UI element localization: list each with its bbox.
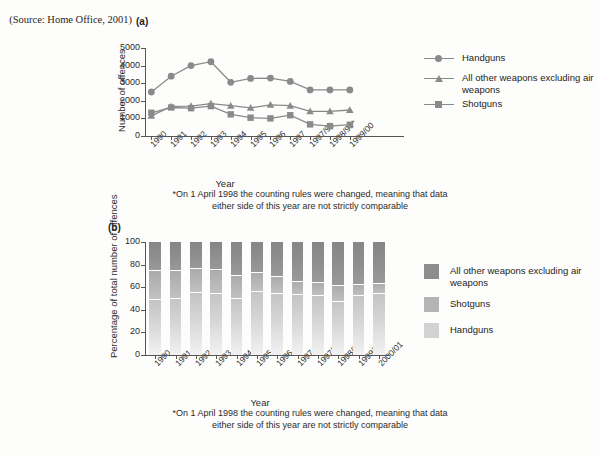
bar-segment-divider [373,283,384,284]
bar-segment-handguns [353,296,364,355]
bar-segment-divider [271,276,282,277]
stacked-bar [231,242,242,355]
chart-a-data-point [327,86,334,93]
bar-segment-shotguns [332,286,343,302]
bar-segment-divider [210,269,221,270]
bar-segment-divider [312,295,323,296]
chart-a-data-point [346,86,353,93]
bar-segment-divider [251,272,262,273]
bar-segment-other-weapons [332,242,343,286]
chart-b-y-axis-label: Percentage of total number of offences [108,238,120,358]
bar-segment-shotguns [149,271,160,299]
bar-segment-other-weapons [292,242,303,282]
chart-b-y-tick-label: 80 [115,259,140,269]
bar-segment-handguns [373,294,384,355]
chart-a-legend-label: All other weapons excluding air weapons [462,72,594,95]
bar-segment-shotguns [170,271,181,298]
chart-a-data-point [307,86,314,93]
bar-segment-handguns [271,294,282,355]
chart-a-data-point [287,112,293,118]
chart-b-legend-label: Handguns [450,324,595,336]
bar-segment-shotguns [271,277,282,294]
bar-segment-divider [170,298,181,299]
chart-b-x-axis [145,355,389,356]
bar-segment-other-weapons [373,242,384,284]
chart-b-y-tick-label: 20 [115,326,140,336]
chart-b-plot-area [145,242,389,355]
stacked-bar [251,242,262,355]
bar-segment-divider [190,292,201,293]
bar-segment-divider [292,294,303,295]
bar-segment-other-weapons [190,242,201,269]
chart-a-data-point [168,73,175,80]
bar-segment-other-weapons [170,242,181,271]
stacked-bar [332,242,343,355]
bar-segment-shotguns [312,283,323,297]
chart-b-y-tick-label: 60 [115,281,140,291]
chart-a-data-point [148,89,155,96]
stacked-bar [271,242,282,355]
bar-segment-shotguns [292,282,303,296]
bar-segment-divider [332,301,343,302]
chart-a-data-point [267,115,273,121]
chart-a-data-point [207,58,214,65]
bar-segment-divider [271,293,282,294]
chart-a-footnote: *On 1 April 1998 the counting rules were… [160,189,460,212]
chart-a-data-point [188,105,194,111]
bar-segment-other-weapons [149,242,160,271]
stacked-bar [149,242,160,355]
bar-segment-other-weapons [210,242,221,270]
bar-segment-other-weapons [251,242,262,273]
stacked-bar [373,242,384,355]
legend-circle-marker-icon [435,55,442,62]
bar-segment-divider [332,285,343,286]
bar-segment-handguns [170,299,181,356]
chart-a-data-point [247,75,254,82]
stacked-bar [170,242,181,355]
bar-segment-other-weapons [353,242,364,285]
stacked-bar [210,242,221,355]
chart-b-footnote: *On 1 April 1998 the counting rules were… [160,408,460,431]
chart-a-data-point [227,79,234,86]
bar-segment-divider [210,293,221,294]
bar-segment-divider [190,268,201,269]
bar-segment-divider [292,281,303,282]
bar-segment-handguns [210,294,221,355]
stacked-bar [190,242,201,355]
bar-segment-handguns [149,300,160,355]
bar-segment-divider [312,282,323,283]
bar-segment-shotguns [231,276,242,299]
stacked-bar [353,242,364,355]
chart-b-legend-label: All other weapons excluding air weapons [450,265,595,288]
chart-a-legend-label: Shotguns [462,98,594,110]
legend-color-swatch [424,264,439,279]
chart-a-data-point [327,123,333,129]
chart-a-data-point [188,62,195,69]
bar-segment-other-weapons [312,242,323,283]
bar-segment-other-weapons [271,242,282,277]
bar-segment-handguns [190,293,201,355]
legend-color-swatch [424,323,439,338]
bar-segment-divider [353,295,364,296]
chart-a-data-point [247,114,253,120]
chart-a-data-point [148,110,154,116]
chart-a-data-point [228,111,234,117]
chart-b-y-tick-label: 100 [115,236,140,246]
chart-a-data-point [287,78,294,85]
chart-a-data-point [208,103,214,109]
legend-triangle-marker-icon [435,75,443,82]
chart-b-y-tick-label: 0 [115,349,140,359]
bar-segment-handguns [251,292,262,355]
bar-segment-divider [231,298,242,299]
bar-segment-handguns [231,299,242,356]
bar-segment-shotguns [210,270,221,294]
bar-segment-divider [353,284,364,285]
chart-b-y-axis [145,242,146,356]
bar-segment-handguns [332,302,343,355]
chart-a-x-axis-label: Year [175,178,275,189]
bar-segment-divider [149,299,160,300]
chart-a-data-point [347,122,353,128]
bar-segment-divider [231,275,242,276]
bar-segment-shotguns [251,273,262,292]
stacked-bar [292,242,303,355]
